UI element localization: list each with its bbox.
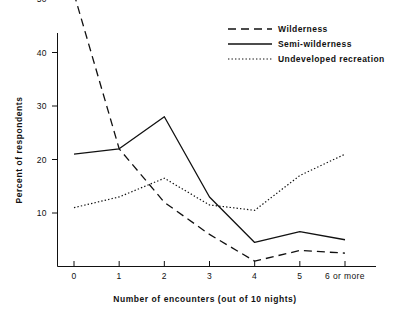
y-axis-tick-labels: 1020304050 bbox=[37, 0, 47, 218]
legend-label-semi-wilderness: Semi-wilderness bbox=[278, 39, 352, 49]
x-axis-tick-label: 0 bbox=[71, 271, 76, 281]
y-axis-ticks bbox=[52, 0, 58, 213]
y-axis-title: Percent of respondents bbox=[14, 96, 24, 203]
legend-label-wilderness: Wilderness bbox=[278, 24, 328, 34]
x-axis-tick-label: 6 or more bbox=[325, 271, 365, 281]
chart-figure: 1020304050 0123456 or more Number of enc… bbox=[0, 0, 401, 318]
x-axis-tick-label: 1 bbox=[117, 271, 122, 281]
series-line-undeveloped-recreation bbox=[74, 154, 345, 210]
y-axis-tick-label: 30 bbox=[37, 101, 47, 111]
encounters-line-chart: 1020304050 0123456 or more Number of enc… bbox=[0, 0, 401, 318]
x-axis-tick-label: 5 bbox=[297, 271, 302, 281]
y-axis-tick-label: 20 bbox=[37, 155, 47, 165]
x-axis-title: Number of encounters (out of 10 nights) bbox=[113, 294, 296, 304]
x-axis-ticks bbox=[74, 261, 345, 267]
y-axis-tick-label: 10 bbox=[37, 208, 47, 218]
chart-legend: WildernessSemi-wildernessUndeveloped rec… bbox=[228, 24, 385, 64]
legend-label-undeveloped-recreation: Undeveloped recreation bbox=[278, 54, 385, 64]
chart-axes bbox=[58, 33, 377, 267]
y-axis-tick-label: 40 bbox=[37, 48, 47, 58]
x-axis-tick-label: 4 bbox=[252, 271, 257, 281]
x-axis-tick-label: 2 bbox=[162, 271, 167, 281]
x-axis-tick-labels: 0123456 or more bbox=[71, 271, 365, 281]
x-axis-tick-label: 3 bbox=[207, 271, 212, 281]
y-axis-tick-label: 50 bbox=[37, 0, 47, 4]
